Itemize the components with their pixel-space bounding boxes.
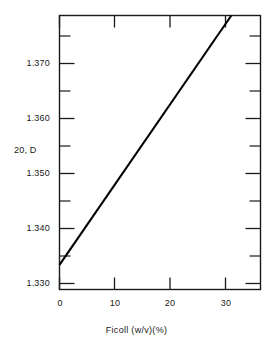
x-tick-label-20: 20 xyxy=(155,299,185,308)
x-axis-label: Ficoll (w/v)(%) xyxy=(0,326,273,335)
y-tick-label-1350: 1.350 xyxy=(4,169,50,178)
x-tick-label-0: 0 xyxy=(45,299,75,308)
x-tick-label-30: 30 xyxy=(211,299,241,308)
y-axis-label: 20, D xyxy=(14,146,37,155)
y-tick-label-1370: 1.370 xyxy=(4,59,50,68)
y-tick-label-1340: 1.340 xyxy=(4,224,50,233)
y-tick-label-1330: 1.330 xyxy=(4,279,50,288)
plot-frame xyxy=(60,16,261,290)
chart-figure: 1.370 1.360 1.350 1.340 1.330 20, D 0 10… xyxy=(0,0,273,344)
x-tick-label-10: 10 xyxy=(100,299,130,308)
y-tick-label-1360: 1.360 xyxy=(4,114,50,123)
